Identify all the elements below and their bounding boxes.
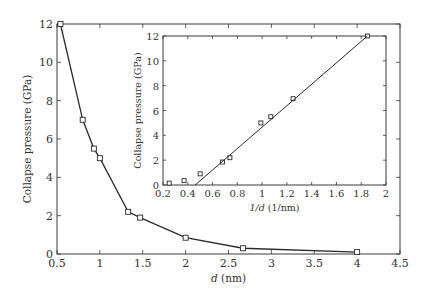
inset-x-tick-label: 1 bbox=[259, 188, 265, 199]
main-y-axis-title: Collapse pressure (GPa) bbox=[21, 75, 33, 204]
main-data-marker bbox=[355, 250, 360, 255]
inset-y-tick-label: 8 bbox=[153, 81, 159, 92]
inset-x-tick-label: 0.6 bbox=[205, 188, 221, 199]
main-x-tick-label: 1 bbox=[96, 257, 103, 270]
main-x-tick-label: 3 bbox=[268, 257, 275, 270]
inset-data-marker bbox=[167, 181, 171, 185]
main-x-tick-label: 2.5 bbox=[220, 257, 238, 270]
main-data-marker bbox=[58, 22, 63, 27]
inset-y-tick-label: 6 bbox=[153, 106, 159, 117]
main-x-axis-title: d (nm) bbox=[211, 272, 246, 284]
main-x-tick-label: 4 bbox=[354, 257, 361, 270]
main-series-line bbox=[60, 24, 357, 252]
inset-plot-frame bbox=[163, 36, 386, 185]
main-y-tick-label: 8 bbox=[46, 95, 53, 108]
main-data-marker bbox=[91, 146, 96, 151]
inset-x-tick-label: 0.8 bbox=[229, 188, 245, 199]
inset-y-tick-label: 2 bbox=[153, 155, 159, 166]
inset-x-axis-title: 1/d (1/nm) bbox=[249, 202, 299, 213]
main-data-marker bbox=[80, 117, 85, 122]
main-data-marker bbox=[97, 156, 102, 161]
main-data-marker bbox=[241, 246, 246, 251]
main-y-tick-label: 4 bbox=[46, 171, 53, 184]
inset-y-tick-label: 4 bbox=[153, 130, 159, 141]
main-y-tick-label: 10 bbox=[39, 56, 53, 69]
inset-y-tick-label: 0 bbox=[153, 180, 159, 191]
main-data-marker bbox=[183, 235, 188, 240]
main-plot: 0.511.522.533.544.5024681012d (nm)Collap… bbox=[21, 18, 409, 284]
inset-x-tick-label: 1.4 bbox=[304, 188, 320, 199]
inset-x-tick-label: 0.4 bbox=[180, 188, 196, 199]
chart: 0.511.522.533.544.5024681012d (nm)Collap… bbox=[0, 0, 427, 300]
inset-data-marker bbox=[198, 172, 202, 176]
main-data-marker bbox=[138, 215, 143, 220]
main-x-tick-label: 4.5 bbox=[391, 257, 409, 270]
inset-y-tick-label: 12 bbox=[146, 31, 159, 42]
inset-x-tick-label: 2 bbox=[383, 188, 389, 199]
main-y-tick-label: 6 bbox=[46, 133, 53, 146]
main-x-tick-label: 1.5 bbox=[134, 257, 152, 270]
main-data-marker bbox=[126, 209, 131, 214]
main-y-tick-label: 0 bbox=[46, 248, 53, 261]
main-x-tick-label: 3.5 bbox=[306, 257, 324, 270]
inset-y-axis-title: Collapse pressure (GPa) bbox=[132, 52, 143, 168]
main-plot-frame bbox=[57, 24, 400, 254]
inset-x-tick-label: 1.2 bbox=[279, 188, 295, 199]
main-y-tick-label: 2 bbox=[46, 210, 53, 223]
inset-plot: 0.20.40.60.811.21.41.61.820246810121/d (… bbox=[132, 31, 389, 213]
inset-fit-line bbox=[195, 36, 367, 185]
main-y-tick-label: 12 bbox=[39, 18, 53, 31]
inset-data-marker bbox=[259, 121, 263, 125]
inset-data-marker bbox=[182, 179, 186, 183]
inset-y-tick-label: 10 bbox=[146, 56, 159, 67]
inset-x-tick-label: 1.8 bbox=[353, 188, 369, 199]
main-x-tick-label: 2 bbox=[182, 257, 189, 270]
inset-x-tick-label: 1.6 bbox=[328, 188, 344, 199]
